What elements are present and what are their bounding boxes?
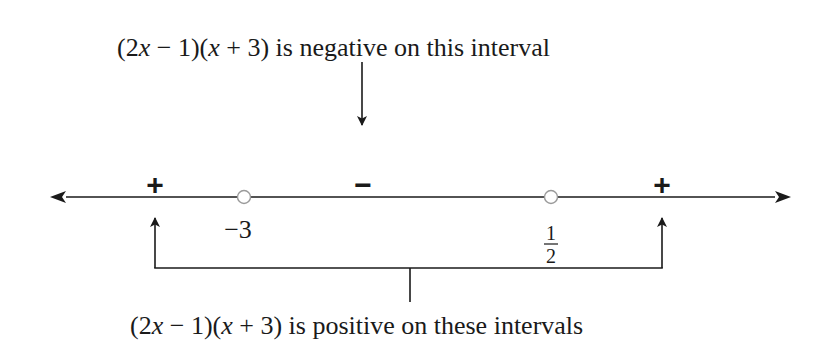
bottom-label: (2x − 1)(x + 3) is positive on these int… xyxy=(130,311,583,340)
fraction-denominator: 2 xyxy=(546,245,556,267)
open-circle-icon xyxy=(545,191,558,204)
fraction-numerator: 1 xyxy=(546,222,556,244)
critical-point-label-neg3: −3 xyxy=(224,215,252,244)
sign-plus-right: + xyxy=(653,168,671,201)
sign-chart-diagram: (2x − 1)(x + 3) is negative on this inte… xyxy=(0,0,821,358)
open-circle-icon xyxy=(238,191,251,204)
sign-minus-middle: − xyxy=(354,168,372,201)
left-arrowhead-icon xyxy=(50,191,66,203)
top-label: (2x − 1)(x + 3) is negative on this inte… xyxy=(117,33,550,62)
sign-plus-left: + xyxy=(146,168,164,201)
right-arrowhead-icon xyxy=(775,191,791,203)
